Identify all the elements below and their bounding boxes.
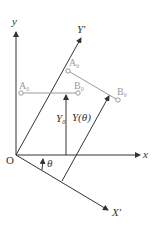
theta-arrow <box>42 159 43 170</box>
point-btheta <box>116 98 120 102</box>
point-a0 <box>19 91 23 95</box>
y-prime-axis-label: Y' <box>77 23 86 35</box>
label-b0: B0 <box>74 80 84 92</box>
label-a0: A0 <box>19 80 29 92</box>
origin-label: O <box>6 154 14 166</box>
label-btheta: Bθ <box>117 86 127 98</box>
label-atheta: Aθ <box>69 57 79 69</box>
x-prime-axis <box>16 155 108 210</box>
point-atheta <box>66 69 70 73</box>
y0-label: Y0 <box>56 112 65 125</box>
x-prime-axis-label: X' <box>111 206 122 218</box>
y-axis-label: y <box>11 15 17 27</box>
point-b0 <box>76 91 80 95</box>
x-axis-label: x <box>142 148 148 160</box>
ytheta-arrow <box>62 96 109 181</box>
ytheta-label: Y(θ) <box>72 111 91 124</box>
y-prime-axis <box>16 38 81 155</box>
theta-label: θ <box>47 157 53 169</box>
coordinate-rotation-diagram: y x Y' X' O A0 B0 Aθ Bθ Y0 Y(θ) θ <box>0 0 155 227</box>
